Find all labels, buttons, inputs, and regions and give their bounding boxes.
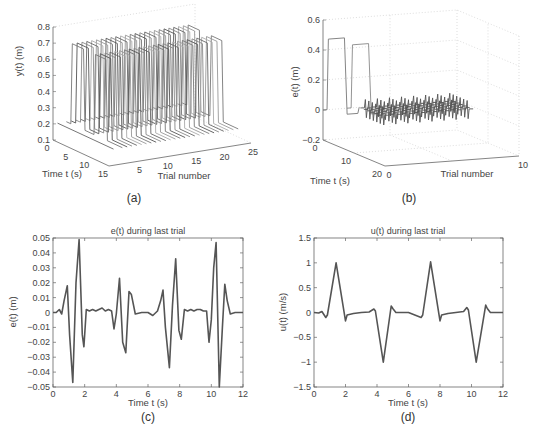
time-tick-label: 5: [63, 152, 68, 162]
trial-tick-label: 0: [386, 170, 391, 180]
time-tick-label: 10: [341, 156, 351, 166]
title-d: u(t) during last trial: [371, 226, 446, 236]
z-tick-label: 0.2: [37, 119, 50, 129]
panel-b-3d-error-plot: −0.200.20.40.601020010: [302, 10, 528, 180]
z-tick-label: 0.7: [37, 38, 50, 48]
y-tick-label: −0.03: [27, 352, 50, 362]
z-tick-label: 0.5: [37, 70, 50, 80]
z-tick-label: 0.3: [37, 103, 50, 113]
xlabel-b: Time t (s): [310, 175, 350, 186]
axes-box: [323, 20, 519, 166]
time-tick-label: 15: [98, 169, 108, 179]
y-tick-label: 0: [45, 308, 50, 318]
x-tick-label: 10: [206, 389, 216, 399]
trial-tick-label: 20: [220, 152, 230, 162]
grid-line: [323, 10, 519, 36]
y-tick-label: −1.5: [293, 382, 311, 392]
time-tick-label: 0: [312, 143, 317, 153]
x-tick-label: 8: [437, 389, 442, 399]
z-tick-label: 0.6: [37, 54, 50, 64]
title-c: e(t) during last trial: [111, 226, 186, 236]
caption-d: (d): [401, 410, 416, 424]
y-tick-label: −0.5: [293, 332, 311, 342]
ylabel-d: u(t) (m/s): [277, 293, 288, 332]
time-tick-label: 20: [372, 169, 382, 179]
x-tick-label: 8: [177, 389, 182, 399]
x-tick-label: 4: [374, 389, 379, 399]
panel-d-input-last-trial: 024681012−1.5−1−0.500.511.5: [293, 233, 508, 399]
y-tick-label: −0.05: [27, 382, 50, 392]
panel-a-3d-output-plot: 0.10.20.30.40.50.60.70.8051015510152025: [37, 4, 258, 179]
x-tick-label: 2: [343, 389, 348, 399]
x-tick-label: 10: [466, 389, 476, 399]
grid-line: [390, 15, 452, 161]
first-trial-baseline: [58, 123, 114, 149]
grid-line: [354, 23, 488, 153]
x-tick-label: 12: [498, 389, 508, 399]
y-tick-label: 0: [306, 308, 311, 318]
xlabel-d: Time t (s): [388, 397, 428, 408]
zlabel-b: e(t) (m): [289, 66, 300, 97]
second-trial-trajectory: [347, 44, 381, 114]
x-tick-label: 0: [50, 389, 55, 399]
caption-b: (b): [402, 191, 417, 205]
figure-canvas: 0.10.20.30.40.50.60.70.8051015510152025 …: [0, 0, 540, 438]
x-tick-label: 4: [114, 389, 119, 399]
y-tick-label: −1: [301, 357, 311, 367]
y-tick-label: 0.01: [32, 293, 50, 303]
z-tick-label: 0.6: [307, 15, 320, 25]
z-tick-label: 0: [315, 105, 320, 115]
xlabel-a: Time t (s): [42, 168, 82, 179]
y-tick-label: 0.5: [298, 283, 311, 293]
y-tick-label: −0.02: [27, 337, 50, 347]
ylabel-c: e(t) (m): [7, 296, 18, 327]
panel-c-error-last-trial: 024681012−0.05−0.04−0.03−0.02−0.0100.010…: [27, 233, 248, 399]
y-tick-label: −0.04: [27, 367, 50, 377]
trial-tick-label: 10: [518, 160, 528, 170]
caption-a: (a): [127, 191, 142, 205]
z-tick-label: 0.8: [37, 22, 50, 32]
xlabel-c: Time t (s): [128, 397, 168, 408]
trial-tick-label: 15: [191, 156, 201, 166]
y-tick-label: 0.04: [32, 248, 50, 258]
z-tick-label: 0.4: [37, 87, 50, 97]
ylabel-a: Trial number: [158, 170, 211, 181]
y-tick-label: 1: [306, 258, 311, 268]
zlabel-a: y(t) (m): [13, 46, 24, 77]
y-tick-label: 0.03: [32, 263, 50, 273]
y-tick-label: 0.05: [32, 233, 50, 243]
x-tick-label: 12: [238, 389, 248, 399]
y-tick-label: 1.5: [298, 233, 311, 243]
trial-tick-label: 25: [248, 147, 258, 157]
ylabel-b: Trial number: [441, 168, 494, 179]
x-tick-label: 2: [82, 389, 87, 399]
data-line: [53, 240, 243, 388]
z-tick-label: 0.4: [307, 45, 320, 55]
caption-c: (c): [141, 410, 155, 424]
trial-tick-label: 5: [137, 165, 142, 175]
y-tick-label: 0.02: [32, 278, 50, 288]
x-tick-label: 0: [311, 389, 316, 399]
z-tick-label: 0.2: [307, 75, 320, 85]
data-line: [314, 262, 503, 362]
time-tick-label: 0: [44, 143, 49, 153]
y-tick-label: −0.01: [27, 322, 50, 332]
grid-line: [323, 70, 519, 96]
first-trial-trajectory: [323, 38, 359, 114]
